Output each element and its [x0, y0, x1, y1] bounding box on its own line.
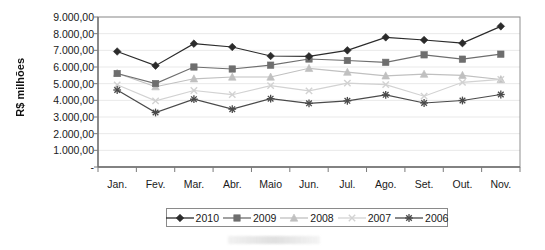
x-axis-tick-label: Jun. [299, 178, 319, 190]
data-point-marker-asterisk [343, 97, 351, 105]
data-point-marker-diamond [113, 48, 121, 56]
x-axis-tick-label: Mar. [184, 178, 204, 190]
data-point-marker-square [344, 57, 350, 63]
legend-marker-square-icon [222, 211, 252, 225]
data-point-marker-asterisk [190, 95, 198, 103]
data-point-marker-x [421, 93, 427, 99]
data-point-marker-diamond [382, 34, 390, 42]
legend-item-2009[interactable]: 2009 [221, 211, 278, 225]
data-point-marker-asterisk [382, 91, 390, 99]
line-chart: R$ milhões -1.000,002.000,003.000,004.00… [0, 0, 545, 250]
data-point-marker-asterisk [405, 214, 413, 222]
data-point-marker-square [229, 66, 235, 72]
plot-border [98, 17, 520, 167]
legend-item-2010[interactable]: 2010 [164, 211, 221, 225]
data-point-marker-asterisk [267, 95, 275, 103]
x-axis-tick-label: Out. [453, 178, 473, 190]
x-axis-tick-label: Fev. [146, 178, 166, 190]
legend-marker-triangle-icon [279, 211, 309, 225]
chart-legend: 20102009200820072006 [166, 208, 448, 227]
data-point-marker-diamond [176, 214, 184, 222]
data-point-marker-square [459, 56, 465, 62]
data-point-marker-asterisk [113, 86, 121, 94]
data-point-marker-square [234, 214, 240, 220]
data-point-marker-square [421, 52, 427, 58]
legend-marker-diamond-icon [165, 211, 195, 225]
legend-marker-x-icon [337, 211, 367, 225]
data-point-marker-diamond [459, 39, 467, 47]
legend-label: 2010 [196, 212, 219, 224]
data-point-marker-diamond [152, 62, 160, 70]
legend-item-2008[interactable]: 2008 [278, 211, 335, 225]
legend-label: 2006 [425, 212, 448, 224]
data-point-marker-triangle [305, 64, 313, 71]
legend-item-2006[interactable]: 2006 [393, 211, 450, 225]
x-axis-tick-label: Jan. [107, 178, 127, 190]
data-point-marker-square [498, 51, 504, 57]
legend-item-2007[interactable]: 2007 [336, 211, 393, 225]
data-point-marker-square [267, 62, 273, 68]
x-axis-tick-label: Set. [415, 178, 434, 190]
legend-label: 2009 [253, 212, 276, 224]
data-point-marker-diamond [228, 43, 236, 51]
series-2008 [113, 64, 504, 90]
x-axis-tick-label: Abr. [223, 178, 242, 190]
data-point-marker-asterisk [497, 91, 505, 99]
data-point-marker-diamond [267, 52, 275, 60]
data-point-marker-diamond [344, 47, 352, 55]
data-point-marker-square [383, 59, 389, 65]
x-axis-tick-label: Maio [259, 178, 282, 190]
x-axis-tick-label: Ago. [375, 178, 397, 190]
footer-artifact [228, 236, 320, 244]
data-point-marker-square [152, 80, 158, 86]
legend-marker-asterisk-icon [394, 211, 424, 225]
data-point-marker-asterisk [305, 99, 313, 107]
data-point-marker-asterisk [459, 97, 467, 105]
legend-label: 2008 [310, 212, 333, 224]
data-point-marker-asterisk [228, 105, 236, 113]
legend-label: 2007 [368, 212, 391, 224]
x-axis-tick-label: Nov. [490, 178, 511, 190]
data-point-marker-diamond [420, 36, 428, 44]
data-point-marker-diamond [497, 23, 505, 31]
data-point-marker-asterisk [152, 109, 160, 117]
data-point-marker-square [114, 70, 120, 76]
x-axis-tick-label: Jul. [339, 178, 355, 190]
data-point-marker-asterisk [420, 99, 428, 107]
data-point-marker-diamond [190, 40, 198, 48]
data-point-marker-square [191, 64, 197, 70]
